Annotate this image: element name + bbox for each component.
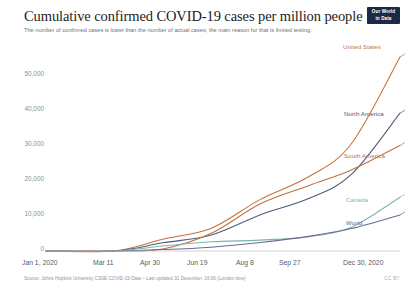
x-tick-mar-11: Mar 11 — [93, 259, 114, 266]
x-tick-apr-30: Apr 30 — [140, 259, 160, 266]
series-label-world[interactable]: World — [346, 219, 362, 226]
logo-line-2: in Data — [367, 16, 400, 22]
x-tick-sep-27: Sep 27 — [279, 259, 301, 266]
chart-subtitle: The number of confirmed cases is lower t… — [24, 26, 312, 34]
series-connector-world — [400, 212, 405, 215]
series-connector-canada — [400, 194, 405, 197]
series-label-north-america[interactable]: North America — [344, 110, 384, 117]
series-label-canada[interactable]: Canada — [346, 196, 368, 203]
y-tick-50000: 50,000 — [4, 70, 44, 77]
y-tick-30000: 30,000 — [4, 140, 44, 147]
y-tick-40000: 40,000 — [4, 105, 44, 112]
x-tick-aug-8: Aug 8 — [236, 259, 254, 266]
y-tick-10000: 10,000 — [4, 210, 44, 217]
series-connector-south-america — [400, 142, 405, 145]
license-label: CC BY — [384, 276, 400, 281]
series-line-north-america[interactable] — [46, 113, 400, 251]
series-label-united-states[interactable]: United States — [343, 43, 381, 50]
page-title: Cumulative confirmed COVID-19 cases per … — [24, 8, 363, 24]
series-label-south-america[interactable]: South America — [344, 152, 385, 159]
series-connector-united-states — [400, 54, 405, 57]
x-tick-dec-30-2020: Dec 30, 2020 — [343, 259, 383, 266]
our-world-in-data-logo[interactable]: Our World in Data — [367, 7, 400, 24]
y-tick-20000: 20,000 — [4, 175, 44, 182]
x-tick-jun-19: Jun 19 — [187, 259, 207, 266]
y-tick-0: 0 — [4, 245, 44, 252]
chart-page: Cumulative confirmed COVID-19 cases per … — [0, 0, 413, 297]
logo-line-1: Our World — [367, 9, 400, 15]
series-connector-north-america — [400, 110, 405, 113]
source-note: Source: Johns Hopkins University CSSE CO… — [24, 276, 246, 281]
x-tick-jan-1-2020: Jan 1, 2020 — [22, 259, 58, 266]
